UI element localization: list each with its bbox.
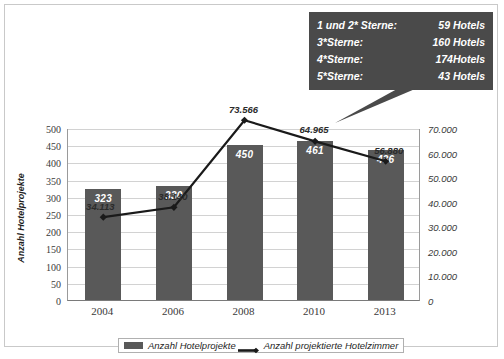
callout-category: 3*Sterne: [317, 34, 363, 51]
y-axis-right-tick-label: 60.000 [428, 148, 457, 159]
callout-tail-icon [335, 89, 415, 123]
line-value-label: 64.965 [300, 124, 329, 135]
callout-value: 43 Hotels [438, 68, 485, 85]
legend-item-line: Anzahl projektierte Hotelzimmer [264, 340, 399, 351]
line-series [68, 129, 421, 301]
x-axis-tick-label: 2013 [355, 305, 415, 317]
star-rating-callout: 1 und 2* Sterne:59 Hotels3*Sterne:160 Ho… [309, 12, 493, 90]
y-axis-right-tick-label: 0 [428, 296, 433, 307]
callout-rows: 1 und 2* Sterne:59 Hotels3*Sterne:160 Ho… [317, 17, 485, 85]
y-axis-left-tick-label: 50 [21, 278, 61, 289]
line-markers [100, 117, 390, 221]
callout-value: 59 Hotels [438, 17, 485, 34]
callout-category: 4*Sterne: [317, 51, 363, 68]
callout-row: 5*Sterne:43 Hotels [317, 68, 485, 85]
bar-swatch-icon [124, 342, 143, 349]
y-axis-left-tick-label: 450 [21, 141, 61, 152]
y-axis-left-tick-label: 500 [21, 124, 61, 135]
y-axis-right-tick-label: 10.000 [428, 271, 457, 282]
callout-value: 174Hotels [435, 51, 485, 68]
y-axis-left-tick-label: 400 [21, 158, 61, 169]
line-value-label: 34.113 [86, 201, 114, 212]
plot-area: 323330450461436 [67, 129, 420, 301]
chart-frame: 050100150200250300350400450500 010.00020… [4, 4, 498, 347]
x-axis-tick-label: 2004 [72, 305, 132, 317]
line-value-label: 56.880 [374, 145, 403, 156]
legend-item-bars: Anzahl Hotelprojekte [124, 340, 236, 351]
y-axis-right-tick-label: 40.000 [428, 197, 457, 208]
line-path [103, 120, 385, 217]
line-marker [100, 214, 107, 221]
y-axis-left-title: Anzahl Hotelprojekte [16, 158, 26, 278]
y-axis-left-tick-label: 250 [21, 210, 61, 221]
callout-value: 160 Hotels [432, 34, 485, 51]
callout-row: 3*Sterne:160 Hotels [317, 34, 485, 51]
y-axis-right-tick-label: 30.000 [428, 222, 457, 233]
y-axis-right-tick-label: 20.000 [428, 246, 457, 257]
legend-label-bars: Anzahl Hotelprojekte [148, 340, 236, 351]
callout-category: 5*Sterne: [317, 68, 363, 85]
callout-row: 4*Sterne:174Hotels [317, 51, 485, 68]
line-value-label: 38.140 [158, 191, 187, 202]
line-marker [382, 158, 389, 165]
x-axis-tick-label: 2006 [143, 305, 203, 317]
y-axis-left-tick-label: 350 [21, 175, 61, 186]
line-marker-icon [238, 341, 260, 350]
line-value-label: 73.566 [229, 104, 258, 115]
callout-row: 1 und 2* Sterne:59 Hotels [317, 17, 485, 34]
y-axis-left-tick-label: 0 [21, 296, 61, 307]
callout-category: 1 und 2* Sterne: [317, 17, 397, 34]
y-axis-left-tick-label: 200 [21, 227, 61, 238]
line-marker [312, 138, 319, 145]
x-axis-tick-label: 2010 [284, 305, 344, 317]
x-axis-tick-label: 2008 [214, 305, 274, 317]
y-axis-left-tick-label: 100 [21, 261, 61, 272]
y-axis-right-tick-label: 70.000 [428, 124, 457, 135]
legend-label-line: Anzahl projektierte Hotelzimmer [264, 340, 399, 351]
y-axis-left-tick-label: 300 [21, 192, 61, 203]
y-axis-left-tick-label: 150 [21, 244, 61, 255]
chart-legend: Anzahl Hotelprojekte Anzahl projektierte… [118, 338, 404, 353]
y-axis-right-tick-label: 50.000 [428, 173, 457, 184]
